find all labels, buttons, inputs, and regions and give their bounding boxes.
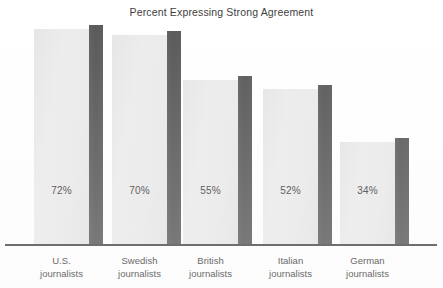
bar-side-panel <box>318 85 332 244</box>
bar-chart: Percent Expressing Strong Agreement 72%7… <box>0 0 443 288</box>
bar-value-label: 70% <box>112 185 167 196</box>
bar-value-label: 55% <box>183 185 238 196</box>
bar-face <box>263 89 318 244</box>
x-axis-label: Germanjournalists <box>322 254 413 280</box>
bar-group: 55% <box>183 80 252 244</box>
x-axis-label-line1: German <box>322 254 413 267</box>
x-axis-label-line2: journalists <box>322 267 413 280</box>
bar-side-panel <box>167 31 181 244</box>
bar-value-label: 34% <box>340 185 395 196</box>
bar-face <box>183 80 238 244</box>
plot-area: 72%70%55%52%34% <box>0 0 443 246</box>
bar-group: 34% <box>340 142 409 244</box>
bar-group: 72% <box>34 29 103 244</box>
bar-face <box>34 29 89 244</box>
bar-side-panel <box>238 76 252 244</box>
bar-face <box>112 35 167 244</box>
bar-side-panel <box>395 138 409 244</box>
x-axis-label: Britishjournalists <box>165 254 256 280</box>
bar-group: 70% <box>112 35 181 244</box>
bar-side-panel <box>89 25 103 244</box>
x-axis-label-line2: journalists <box>165 267 256 280</box>
x-axis-label-line1: British <box>165 254 256 267</box>
bar-group: 52% <box>263 89 332 244</box>
x-axis-line <box>5 244 437 246</box>
bar-value-label: 52% <box>263 185 318 196</box>
bar-value-label: 72% <box>34 185 89 196</box>
x-axis-category-labels: U.S.journalistsSwedishjournalistsBritish… <box>0 250 443 288</box>
